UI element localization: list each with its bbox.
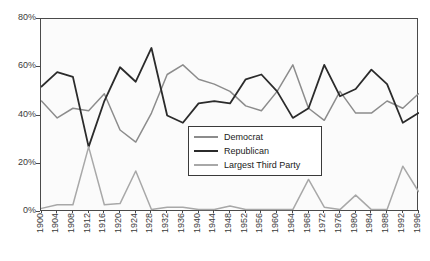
x-tick-label: 1944 (208, 213, 217, 233)
legend-swatch-icon (194, 164, 218, 166)
legend-label: Republican (224, 146, 269, 156)
x-tick-label: 1940 (193, 213, 202, 233)
x-tick-label: 1924 (130, 213, 139, 233)
x-tick-label: 1992 (397, 213, 406, 233)
y-tick-label: 60% (2, 61, 36, 70)
legend-item[interactable]: Largest Third Party (194, 158, 316, 172)
legend-label: Democrat (224, 132, 263, 142)
x-tick-label: 1960 (271, 213, 280, 233)
x-tick-label: 1952 (240, 213, 249, 233)
legend-item[interactable]: Democrat (194, 130, 316, 144)
legend-label: Largest Third Party (224, 160, 300, 170)
plot-lines (41, 19, 419, 212)
x-tick-label: 1904 (51, 213, 60, 233)
x-tick-label: 1928 (145, 213, 154, 233)
x-tick-label: 1956 (255, 213, 264, 233)
y-tick-label: 80% (2, 13, 36, 22)
x-tick-label: 1932 (161, 213, 170, 233)
x-tick-label: 1936 (177, 213, 186, 233)
plot-area (40, 18, 418, 211)
chart-legend: DemocratRepublicanLargest Third Party (188, 126, 322, 176)
x-tick-label: 1988 (381, 213, 390, 233)
x-tick-label: 1984 (365, 213, 374, 233)
x-tick-label: 1916 (98, 213, 107, 233)
x-tick-label: 1968 (303, 213, 312, 233)
x-tick-label: 1976 (334, 213, 343, 233)
legend-swatch-icon (194, 150, 218, 152)
y-tick-label: 0% (2, 206, 36, 215)
line-chart: 0%20%40%60%80% 1900190419081912191619201… (0, 0, 430, 261)
chart-title (0, 0, 430, 2)
x-axis: 1900190419081912191619201924192819321936… (40, 213, 418, 261)
y-axis: 0%20%40%60%80% (0, 0, 36, 261)
y-tick-label: 40% (2, 110, 36, 119)
x-tick-label: 1948 (224, 213, 233, 233)
x-tick-label: 1980 (350, 213, 359, 233)
x-tick-label: 1920 (114, 213, 123, 233)
legend-swatch-icon (194, 136, 218, 138)
x-tick-label: 1900 (36, 213, 45, 233)
x-tick-label: 1912 (83, 213, 92, 233)
legend-item[interactable]: Republican (194, 144, 316, 158)
x-tick-label: 1972 (318, 213, 327, 233)
y-tick-mark (36, 211, 40, 212)
x-tick-label: 1964 (287, 213, 296, 233)
x-tick-label: 1996 (413, 213, 422, 233)
y-tick-label: 20% (2, 158, 36, 167)
x-tick-label: 1908 (67, 213, 76, 233)
